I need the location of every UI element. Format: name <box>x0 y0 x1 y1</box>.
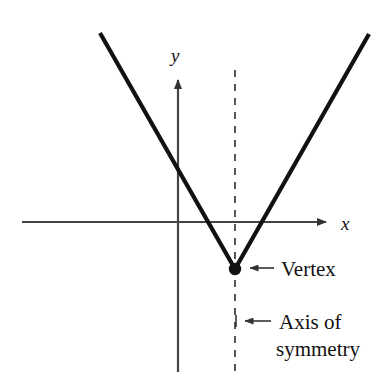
vertex-point <box>229 263 241 275</box>
figure-canvas: x y Vertex Axis of symmetry <box>0 0 377 392</box>
axis-of-symmetry-label-line1: Axis of <box>279 310 341 334</box>
y-axis-label: y <box>169 45 180 66</box>
graph-svg: x y Vertex Axis of symmetry <box>0 0 377 392</box>
x-axis-label: x <box>340 213 350 234</box>
axis-of-symmetry-label-line2: symmetry <box>276 337 360 361</box>
vertex-label: Vertex <box>281 257 336 281</box>
